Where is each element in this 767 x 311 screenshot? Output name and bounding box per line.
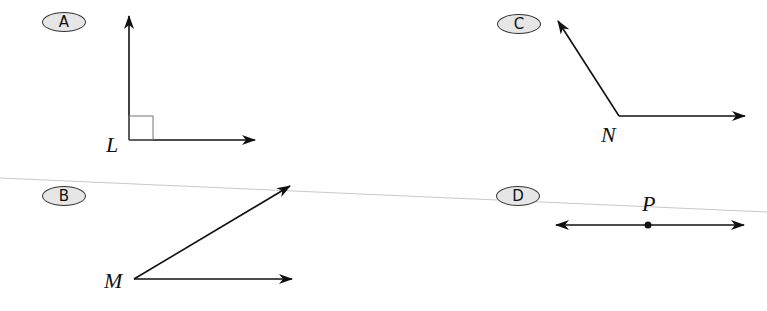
option-b-badge[interactable]: B — [42, 186, 86, 206]
option-a-letter: A — [59, 15, 69, 30]
option-c-badge[interactable]: C — [497, 14, 541, 34]
angle-c — [558, 21, 745, 116]
vertex-label-l: L — [106, 134, 118, 156]
right-angle-marker — [129, 116, 153, 140]
vertex-label-m: M — [104, 270, 122, 292]
ray-up-left — [558, 21, 619, 116]
option-b-letter: B — [59, 189, 69, 204]
point-label-p: P — [642, 193, 655, 215]
ray-up-right — [134, 186, 290, 279]
line-d — [556, 222, 744, 229]
option-d-badge[interactable]: D — [496, 186, 540, 206]
option-a-badge[interactable]: A — [42, 12, 86, 32]
option-c-letter: C — [514, 17, 524, 32]
point-p — [645, 222, 652, 229]
vertex-label-n: N — [601, 124, 616, 146]
angle-a — [129, 16, 255, 140]
option-d-letter: D — [512, 189, 524, 204]
angle-b — [134, 186, 292, 279]
